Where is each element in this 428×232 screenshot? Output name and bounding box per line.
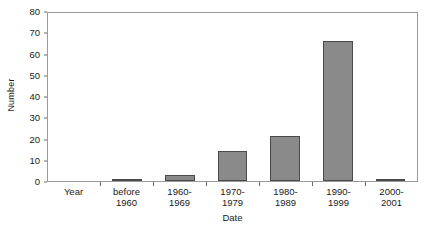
bar-slot [206, 13, 259, 181]
y-axis-tick-label: 10 [29, 156, 40, 166]
bar [112, 179, 142, 181]
bar-chart-figure: Number 01020304050607080 Yearbefore 1960… [0, 0, 428, 232]
bar-series [48, 13, 417, 181]
bar [376, 179, 406, 181]
y-axis-title: Number [0, 0, 22, 190]
bar [270, 136, 300, 181]
y-axis-tick-label: 0 [35, 177, 40, 187]
y-axis-tick-label: 40 [29, 92, 40, 102]
bar [165, 175, 195, 181]
bar [323, 41, 353, 181]
y-axis-tick-label: 20 [29, 135, 40, 145]
y-axis-title-text: Number [6, 78, 16, 111]
x-axis-title: Date [47, 212, 418, 223]
bar-slot [364, 13, 417, 181]
y-axis-tick-label: 70 [29, 29, 40, 39]
bar-slot [312, 13, 365, 181]
plot-area [47, 12, 418, 182]
bar-slot [48, 13, 101, 181]
y-axis-tick-label: 80 [29, 7, 40, 17]
y-axis-tick-labels: 01020304050607080 [20, 8, 44, 182]
y-axis-tick-label: 60 [29, 50, 40, 60]
y-axis-tick-label: 50 [29, 71, 40, 81]
bar-slot [153, 13, 206, 181]
y-axis-tick-label: 30 [29, 114, 40, 124]
bar-slot [259, 13, 312, 181]
bar [218, 151, 248, 181]
bar-slot [101, 13, 154, 181]
